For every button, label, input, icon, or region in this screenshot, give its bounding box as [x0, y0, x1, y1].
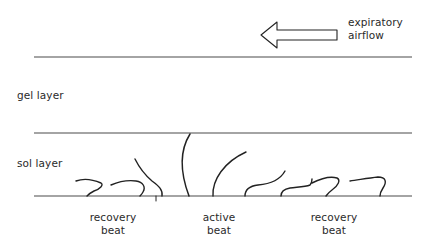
- beat-label-recovery-right: recovery beat: [311, 211, 358, 237]
- cilium-recovery-5: [281, 179, 312, 196]
- cilium-recovery-2: [111, 181, 144, 196]
- cilium-recovery-3: [135, 159, 162, 196]
- beat-label-line2: beat: [311, 224, 358, 237]
- beat-label-line1: recovery: [90, 211, 137, 224]
- cilium-recovery-7: [350, 177, 385, 196]
- beat-label-recovery-left: recovery beat: [90, 211, 137, 237]
- beat-label-line2: beat: [203, 224, 236, 237]
- airflow-label-line2: airflow: [348, 29, 403, 42]
- beat-label-line1: recovery: [311, 211, 358, 224]
- beat-label-line2: beat: [90, 224, 137, 237]
- cilium-recovery-4: [245, 171, 285, 196]
- sol-layer-label: sol layer: [17, 157, 62, 170]
- airflow-label: expiratory airflow: [348, 16, 403, 42]
- airflow-label-line1: expiratory: [348, 16, 403, 29]
- cilium-active-1: [182, 134, 190, 196]
- cilium-recovery-1: [76, 180, 102, 196]
- airflow-arrow-icon: [261, 22, 337, 48]
- cilium-active-2: [213, 152, 246, 196]
- beat-label-active: active beat: [203, 211, 236, 237]
- cilium-recovery-6: [312, 177, 339, 196]
- gel-layer-label: gel layer: [17, 89, 64, 102]
- beat-label-line1: active: [203, 211, 236, 224]
